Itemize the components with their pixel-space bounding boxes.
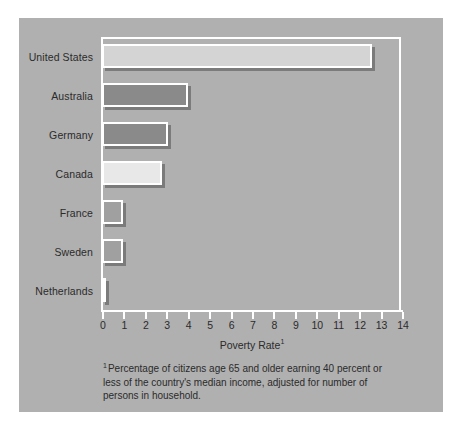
x-tick [273, 312, 275, 319]
category-label: United States [19, 51, 93, 63]
x-tick [166, 312, 168, 319]
bar-track [102, 115, 402, 154]
bar-row: United States [19, 37, 443, 76]
x-tick [123, 312, 125, 319]
x-tick [231, 312, 233, 319]
bar-track [102, 154, 402, 193]
category-label: Canada [19, 168, 93, 180]
x-axis-ticks [102, 312, 402, 319]
x-tick-label: 14 [397, 319, 409, 331]
x-tick [316, 312, 318, 319]
bar-row: Canada [19, 154, 443, 193]
x-tick-label: 8 [272, 319, 278, 331]
footnote-text: Percentage of citizens age 65 and older … [103, 363, 382, 401]
x-tick [252, 312, 254, 319]
category-label: Germany [19, 129, 93, 141]
x-tick-label: 3 [164, 319, 170, 331]
bar [102, 44, 372, 68]
x-tick [381, 312, 383, 319]
x-tick-label: 2 [143, 319, 149, 331]
bar [102, 161, 162, 185]
x-tick [402, 312, 404, 319]
bar-track [102, 271, 402, 310]
x-tick-label: 12 [354, 319, 366, 331]
bar-track [102, 37, 402, 76]
x-tick [102, 312, 104, 319]
x-axis-title: Poverty Rate1 [102, 338, 402, 351]
x-axis-title-superscript: 1 [280, 338, 284, 345]
x-axis-tick-labels: 01234567891011121314 [102, 319, 402, 335]
x-tick-label: 7 [250, 319, 256, 331]
x-tick-label: 10 [311, 319, 323, 331]
bar-row: Germany [19, 115, 443, 154]
bar-row: France [19, 193, 443, 232]
x-axis-title-text: Poverty Rate [220, 339, 281, 351]
bar-track [102, 76, 402, 115]
category-label: Australia [19, 90, 93, 102]
bar-row: Sweden [19, 232, 443, 271]
bar-track [102, 232, 402, 271]
x-tick [295, 312, 297, 319]
x-tick [188, 312, 190, 319]
bar-track [102, 193, 402, 232]
bar [102, 83, 188, 107]
bar [102, 239, 123, 263]
x-tick-label: 1 [122, 319, 128, 331]
x-tick-label: 6 [229, 319, 235, 331]
category-label: France [19, 207, 93, 219]
category-label: Netherlands [19, 285, 93, 297]
x-tick-label: 4 [186, 319, 192, 331]
bar [102, 200, 123, 224]
x-tick-label: 0 [100, 319, 106, 331]
x-tick-label: 11 [333, 319, 344, 331]
x-tick [359, 312, 361, 319]
bar-row: Australia [19, 76, 443, 115]
x-tick-label: 9 [293, 319, 299, 331]
bar [102, 278, 106, 302]
footnote: 1Percentage of citizens age 65 and older… [103, 359, 393, 403]
bar [102, 122, 168, 146]
bar-row: Netherlands [19, 271, 443, 310]
x-tick-label: 5 [207, 319, 213, 331]
x-tick [209, 312, 211, 319]
chart-figure: United StatesAustraliaGermanyCanadaFranc… [19, 18, 443, 412]
category-label: Sweden [19, 246, 93, 258]
x-tick-label: 13 [376, 319, 388, 331]
x-tick [145, 312, 147, 319]
x-tick [338, 312, 340, 319]
